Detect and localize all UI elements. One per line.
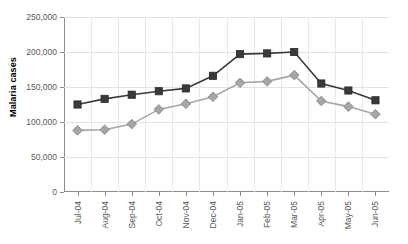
x-tick-mark [240, 192, 241, 196]
data-point-square [345, 87, 352, 94]
x-tick-mark [348, 192, 349, 196]
data-point-diamond [181, 99, 191, 109]
plot-area: 050,000100,000150,000200,000250,000 Jul-… [64, 17, 389, 192]
y-axis-title: Malaria cases [8, 32, 18, 142]
data-point-diamond [100, 125, 110, 135]
x-tick-label: Aug-04 [100, 201, 110, 228]
x-tick-label: Feb-05 [262, 201, 272, 228]
series-line [78, 52, 376, 105]
y-tick-label: 0 [52, 187, 57, 197]
x-tick-mark [375, 192, 376, 196]
data-point-diamond [344, 102, 354, 112]
x-tick-mark [267, 192, 268, 196]
series-dark-squares [74, 48, 379, 108]
data-point-square [209, 72, 216, 79]
y-tick-label: 250,000 [26, 12, 57, 22]
data-point-diamond [235, 78, 245, 88]
data-point-square [236, 51, 243, 58]
data-point-square [101, 95, 108, 102]
data-point-square [318, 80, 325, 87]
y-tick-label: 150,000 [26, 82, 57, 92]
y-tick-label: 200,000 [26, 47, 57, 57]
x-tick-mark [78, 192, 79, 196]
data-point-square [74, 101, 81, 108]
x-tick-label: Dec-04 [208, 201, 218, 228]
x-tick-mark [321, 192, 322, 196]
x-tick-label: Sep-04 [127, 201, 137, 228]
x-tick-label: Nov-04 [181, 201, 191, 228]
x-tick-label: Mar-05 [289, 201, 299, 228]
y-tick-label: 100,000 [26, 117, 57, 127]
data-point-square [264, 50, 271, 57]
x-tick-mark [186, 192, 187, 196]
malaria-cases-line-chart: Malaria cases 050,000100,000150,000200,0… [0, 0, 408, 244]
x-tick-mark [132, 192, 133, 196]
x-tick-mark [105, 192, 106, 196]
data-point-square [182, 85, 189, 92]
series-line [78, 75, 376, 130]
data-point-square [291, 48, 298, 55]
series-light-diamonds [73, 70, 381, 135]
x-tick-mark [213, 192, 214, 196]
x-tick-label: Jan-05 [235, 201, 245, 227]
data-point-square [155, 88, 162, 95]
x-tick-label: Apr-05 [316, 201, 326, 227]
data-point-diamond [73, 126, 83, 136]
data-point-square [372, 97, 379, 104]
y-tick-mark [60, 192, 64, 193]
x-tick-label: Jul-04 [73, 201, 83, 224]
data-point-square [128, 91, 135, 98]
data-point-diamond [208, 92, 218, 102]
data-point-diamond [154, 105, 164, 115]
x-tick-label: Oct-04 [154, 201, 164, 227]
data-point-diamond [127, 119, 137, 129]
y-tick-label: 50,000 [31, 152, 57, 162]
data-point-diamond [262, 77, 272, 87]
x-tick-label: Jun-05 [370, 201, 380, 227]
series-layer [64, 17, 389, 192]
x-tick-mark [159, 192, 160, 196]
x-tick-label: May-05 [343, 201, 353, 229]
x-tick-mark [294, 192, 295, 196]
data-point-diamond [371, 110, 381, 120]
